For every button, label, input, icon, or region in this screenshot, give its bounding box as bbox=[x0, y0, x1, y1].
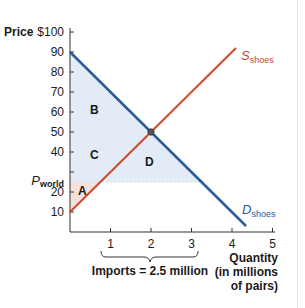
y-tick-80: 80 bbox=[51, 65, 65, 79]
x-axis-title-line1: Quantity bbox=[229, 251, 278, 265]
y-tick-60: 60 bbox=[51, 105, 65, 119]
region-c-label: C bbox=[90, 148, 99, 162]
demand-label: Dshoes bbox=[242, 202, 276, 219]
equilibrium-point bbox=[148, 129, 154, 135]
x-tick-3: 3 bbox=[188, 237, 195, 251]
x-tick-5: 5 bbox=[269, 237, 276, 251]
region-d-label: D bbox=[145, 155, 154, 169]
y-tick-50: 50 bbox=[51, 125, 65, 139]
x-axis-title-line2: (in millions bbox=[215, 265, 279, 279]
imports-label: Imports = 2.5 million bbox=[92, 264, 208, 278]
y-tick-90: 90 bbox=[51, 45, 65, 59]
x-tick-2: 2 bbox=[148, 237, 155, 251]
x-ticks bbox=[111, 228, 273, 232]
x-axis-title-line3: of pairs) bbox=[231, 279, 278, 293]
supply-demand-chart: Price $100 90 80 70 60 50 40 Pworld 20 1… bbox=[0, 0, 305, 308]
region-a-label: A bbox=[78, 184, 87, 198]
x-tick-4: 4 bbox=[229, 237, 236, 251]
y-tick-100: $100 bbox=[37, 25, 64, 39]
region-b-label: B bbox=[90, 103, 99, 117]
x-tick-1: 1 bbox=[107, 237, 114, 251]
y-tick-20: 20 bbox=[51, 185, 65, 199]
y-tick-70: 70 bbox=[51, 85, 65, 99]
imports-brace bbox=[101, 251, 198, 262]
supply-label: Sshoes bbox=[241, 48, 274, 65]
y-tick-10: 10 bbox=[51, 205, 65, 219]
y-tick-40: 40 bbox=[51, 145, 65, 159]
y-axis-title: Price bbox=[4, 25, 34, 39]
